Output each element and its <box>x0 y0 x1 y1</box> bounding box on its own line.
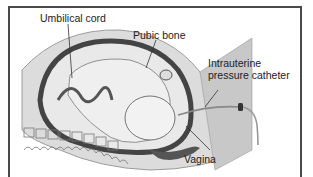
label-vagina: Vagina <box>184 153 216 165</box>
label-catheter-line2: pressure catheter <box>208 69 290 81</box>
fetal-head <box>125 96 175 140</box>
catheter-connector <box>238 103 243 111</box>
label-catheter-line1: Intrauterine <box>208 57 261 69</box>
label-umbilical-cord: Umbilical cord <box>40 12 106 24</box>
label-pubic-bone: Pubic bone <box>133 29 186 41</box>
anatomy-illustration <box>0 0 313 177</box>
pubic-bone <box>160 70 172 80</box>
